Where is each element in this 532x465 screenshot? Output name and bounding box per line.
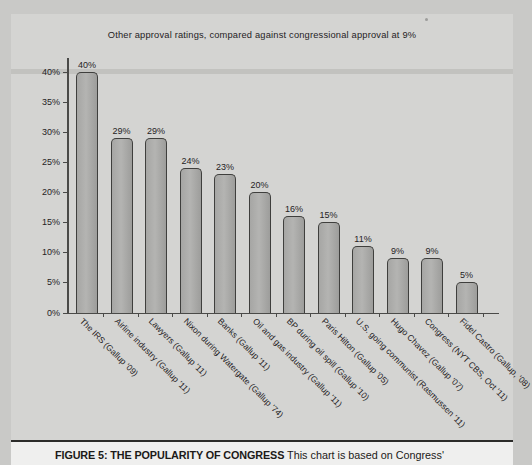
bar-value-label: 15% — [319, 210, 337, 220]
bar-value-label: 5% — [460, 270, 473, 280]
bar[interactable] — [318, 222, 340, 312]
bar-value-label: 9% — [425, 246, 438, 256]
y-axis-tick-label: 5% — [47, 277, 60, 287]
bar-value-label: 29% — [112, 126, 130, 136]
chart-panel: Other approval ratings, compared against… — [11, 14, 513, 440]
y-axis-tick-mark — [63, 252, 67, 253]
chart-title: Other approval ratings, compared against… — [11, 30, 513, 40]
bar[interactable] — [76, 72, 98, 313]
bar-value-label: 16% — [285, 204, 303, 214]
x-axis-category-label: Paris Hilton (Gallup '05) — [319, 316, 390, 387]
figure-caption: FIGURE 5: THE POPULARITY OF CONGRESS Thi… — [55, 449, 513, 461]
y-axis-tick-mark — [63, 132, 67, 133]
bar[interactable] — [421, 258, 443, 312]
bar[interactable] — [214, 174, 236, 313]
bar-slot: 29% — [140, 59, 172, 313]
y-axis-tick-mark — [63, 313, 67, 314]
bar[interactable] — [387, 258, 409, 312]
bar-slot: 16% — [278, 59, 310, 313]
figure-caption-body: This chart is based on Congress' — [284, 449, 444, 461]
y-axis-tick-label: 40% — [42, 67, 60, 77]
bar-slot: 5% — [451, 59, 483, 313]
bar[interactable] — [456, 282, 478, 312]
bar[interactable] — [249, 192, 271, 313]
y-axis-line — [67, 58, 69, 314]
bar-value-label: 24% — [181, 156, 199, 166]
bar-value-label: 29% — [147, 126, 165, 136]
bar-value-label: 9% — [391, 246, 404, 256]
bar-slot: 23% — [209, 59, 241, 313]
y-axis-tick-mark — [63, 282, 67, 283]
x-axis-category-label: Fidel Castro (Gallup, '08) — [457, 316, 531, 390]
y-axis-tick-mark — [63, 222, 67, 223]
figure-caption-strip: FIGURE 5: THE POPULARITY OF CONGRESS Thi… — [11, 440, 513, 465]
y-axis-tick-label: 0% — [47, 308, 60, 318]
y-axis-tick-mark — [63, 102, 67, 103]
bar-slot: 11% — [347, 59, 379, 313]
bar[interactable] — [352, 246, 374, 312]
y-axis-tick-label: 25% — [42, 157, 60, 167]
caption-divider — [11, 440, 513, 442]
x-axis-category-label: Lawyers (Gallup '11) — [147, 316, 209, 378]
y-axis-tick-mark — [63, 192, 67, 193]
bar-slot: 9% — [416, 59, 448, 313]
bar-value-label: 11% — [354, 234, 371, 244]
bar-value-label: 23% — [216, 162, 234, 172]
bar-slot: 29% — [106, 59, 138, 313]
figure-caption-lead: FIGURE 5: THE POPULARITY OF CONGRESS — [55, 449, 284, 461]
y-axis-tick-label: 10% — [42, 247, 60, 257]
y-axis-tick-label: 35% — [42, 97, 60, 107]
x-axis-line — [67, 313, 499, 315]
y-axis-tick-label: 30% — [42, 127, 60, 137]
plot-area: 40%35%30%25%20%15%10%5%0% 40%29%29%24%23… — [67, 58, 499, 314]
scan-speck — [425, 18, 428, 21]
bar-slot: 24% — [175, 59, 207, 313]
bar[interactable] — [283, 216, 305, 312]
bar[interactable] — [180, 168, 202, 313]
y-axis-tick-label: 15% — [42, 217, 60, 227]
bar-slot: 20% — [244, 59, 276, 313]
bar-slot: 15% — [313, 59, 345, 313]
bar-value-label: 20% — [250, 180, 268, 190]
bar-value-label: 40% — [78, 60, 96, 70]
bar[interactable] — [111, 138, 133, 313]
y-axis-tick-mark — [63, 162, 67, 163]
x-axis-category-label: The IRS (Gallup '09) — [78, 316, 140, 378]
bar[interactable] — [145, 138, 167, 313]
bar-slot: 9% — [382, 59, 414, 313]
y-axis-tick-mark — [63, 72, 67, 73]
y-axis-tick-label: 20% — [42, 187, 60, 197]
x-axis-category-labels: The IRS (Gallup '09)Airline industry (Ga… — [67, 316, 517, 441]
bar-slot: 40% — [71, 59, 103, 313]
